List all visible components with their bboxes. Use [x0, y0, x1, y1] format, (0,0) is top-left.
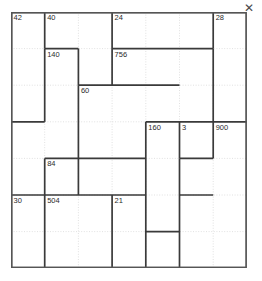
grid-cell[interactable] [213, 12, 247, 49]
grid-cell[interactable] [78, 158, 112, 195]
grid-cell[interactable] [180, 122, 214, 159]
grid-cell[interactable] [45, 232, 79, 269]
grid-cell[interactable] [11, 12, 45, 49]
grid-cell[interactable] [146, 232, 180, 269]
grid-cell[interactable] [146, 158, 180, 195]
grid-cell[interactable] [180, 12, 214, 49]
grid-cell[interactable] [213, 158, 247, 195]
grid-cell[interactable] [213, 232, 247, 269]
grid-cell[interactable] [45, 122, 79, 159]
grid-cell[interactable] [45, 12, 79, 49]
grid-cell[interactable] [146, 12, 180, 49]
grid-cell[interactable] [146, 195, 180, 232]
puzzle-grid[interactable]: 42402428140756601603900843050421 [11, 12, 247, 268]
grid-cell[interactable] [112, 158, 146, 195]
grid-cell[interactable] [78, 195, 112, 232]
grid-cell[interactable] [112, 12, 146, 49]
grid-cell[interactable] [146, 85, 180, 122]
grid-cell[interactable] [45, 49, 79, 86]
puzzle-window: ✕ 42402428140756601603900843050421 [0, 0, 262, 281]
grid-cell[interactable] [112, 232, 146, 269]
grid-cell[interactable] [180, 195, 214, 232]
grid-cell[interactable] [11, 158, 45, 195]
grid-cell[interactable] [112, 85, 146, 122]
grid-cell[interactable] [180, 232, 214, 269]
grid-cell[interactable] [78, 49, 112, 86]
grid-cell[interactable] [180, 49, 214, 86]
grid-cell[interactable] [213, 85, 247, 122]
grid-cell[interactable] [45, 195, 79, 232]
grid-cell[interactable] [112, 122, 146, 159]
grid-cell[interactable] [180, 158, 214, 195]
grid-cell[interactable] [78, 85, 112, 122]
grid-cell[interactable] [11, 195, 45, 232]
grid-cell[interactable] [112, 49, 146, 86]
grid-cell[interactable] [213, 49, 247, 86]
grid-cell[interactable] [11, 49, 45, 86]
grid-cell[interactable] [146, 122, 180, 159]
grid-cell[interactable] [78, 12, 112, 49]
grid-cell[interactable] [45, 85, 79, 122]
grid-cell[interactable] [146, 49, 180, 86]
grid-cell[interactable] [78, 122, 112, 159]
grid-cell[interactable] [78, 232, 112, 269]
grid-cell[interactable] [180, 85, 214, 122]
grid-cell[interactable] [45, 158, 79, 195]
grid-cell[interactable] [11, 122, 45, 159]
grid-cell[interactable] [11, 232, 45, 269]
grid-cell[interactable] [11, 85, 45, 122]
grid-cell[interactable] [213, 195, 247, 232]
grid-cell[interactable] [213, 122, 247, 159]
grid-cell[interactable] [112, 195, 146, 232]
